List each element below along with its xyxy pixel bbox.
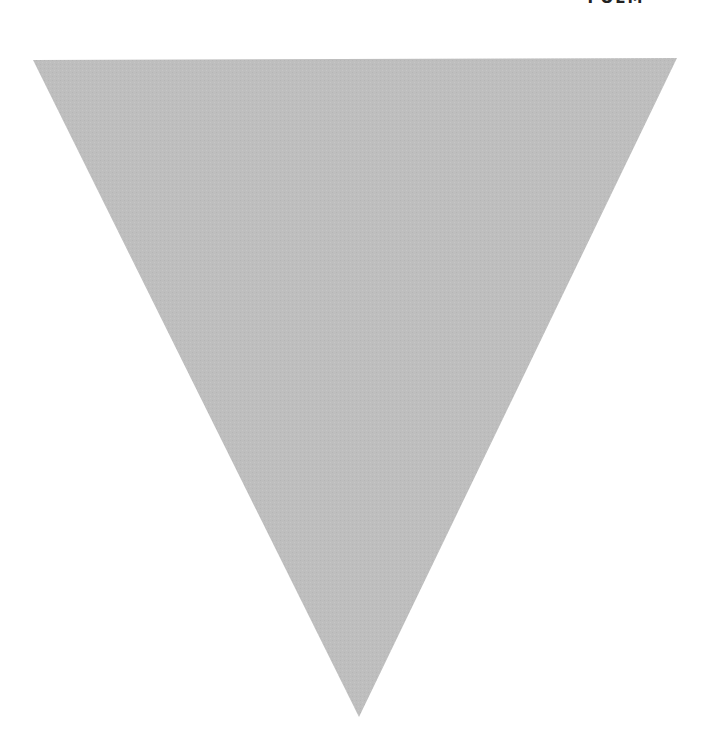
triangle-fill [33,58,677,717]
triangle-pennant-shape [0,0,707,752]
